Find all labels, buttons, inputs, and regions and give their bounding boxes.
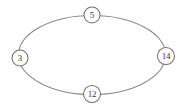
- graph-node-top[interactable]: 5: [84, 7, 100, 23]
- diagram-canvas: 5 14 12 3: [0, 0, 183, 111]
- node-left-label: 3: [18, 53, 23, 63]
- node-bottom-label: 12: [88, 89, 97, 99]
- graph-node-left[interactable]: 3: [12, 50, 28, 66]
- graph-node-bottom[interactable]: 12: [84, 86, 101, 103]
- node-right-label: 14: [162, 51, 171, 61]
- cycle-edge-ellipse: [19, 16, 166, 95]
- cycle-graph-svg: 5 14 12 3: [0, 0, 183, 111]
- node-top-label: 5: [90, 10, 95, 20]
- graph-node-right[interactable]: 14: [158, 48, 175, 65]
